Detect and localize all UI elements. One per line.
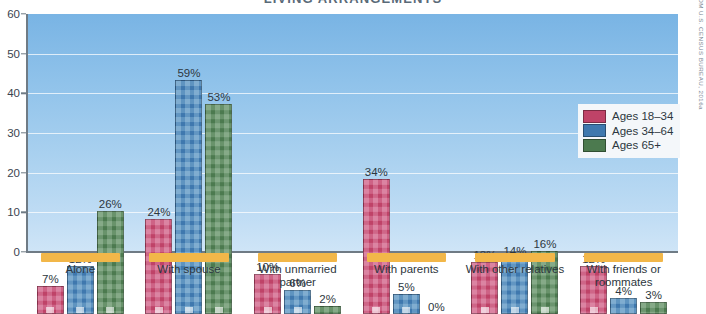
bar[interactable]: 53% xyxy=(205,104,232,314)
base-strip xyxy=(149,253,228,262)
bar[interactable]: 3% xyxy=(640,302,667,314)
category-label: Alone xyxy=(26,263,135,276)
category-label: With other relatives xyxy=(461,263,570,276)
bar-value-label: 16% xyxy=(533,238,556,250)
bar-value-label: 53% xyxy=(207,91,230,103)
category-label: With spouse xyxy=(135,263,244,276)
bar-value-label: 59% xyxy=(177,67,200,79)
bar-door-detail xyxy=(402,307,410,313)
bar[interactable]: 2% xyxy=(314,306,341,314)
base-strip xyxy=(584,253,663,262)
bar-door-detail xyxy=(76,307,84,313)
base-strip xyxy=(41,253,120,262)
base-strip xyxy=(475,253,554,262)
legend-swatch-ages-65-plus xyxy=(583,139,606,152)
legend-item: Ages 34–64 xyxy=(583,124,673,137)
legend-label-ages-18-34: Ages 18–34 xyxy=(612,110,673,122)
bar-value-label: 24% xyxy=(147,206,170,218)
legend-item: Ages 65+ xyxy=(583,139,673,152)
legend-label-ages-65-plus: Ages 65+ xyxy=(612,139,661,151)
bar-door-detail xyxy=(46,307,54,313)
bar[interactable]: 7% xyxy=(37,286,64,314)
bar-door-detail xyxy=(185,307,193,313)
bar-value-label: 34% xyxy=(365,166,388,178)
bar-door-detail xyxy=(590,307,598,313)
bar-value-label: 26% xyxy=(99,198,122,210)
source-credit: DATA FROM U.S. CENSUS BUREAU, 2016a xyxy=(698,0,705,110)
bar[interactable]: 59% xyxy=(175,80,202,314)
bar-value-label: 5% xyxy=(398,281,415,293)
bar-door-detail xyxy=(372,307,380,313)
chart-title: LIVING ARRANGEMENTS xyxy=(0,0,706,6)
bar-door-detail xyxy=(215,307,223,313)
bar-value-label: 0% xyxy=(428,301,445,313)
bar-door-detail xyxy=(511,307,519,313)
bar-door-detail xyxy=(481,307,489,313)
bar-door-detail xyxy=(541,307,549,313)
bar[interactable]: 4% xyxy=(610,298,637,314)
bar[interactable]: 5% xyxy=(393,294,420,314)
bar-value-label: 3% xyxy=(645,289,662,301)
base-strip xyxy=(367,253,446,262)
legend-item: Ages 18–34 xyxy=(583,110,673,123)
legend-label-ages-34-64: Ages 34–64 xyxy=(612,125,673,137)
category-label: With friends or roommates xyxy=(569,263,678,289)
bar-value-label: 2% xyxy=(319,293,336,305)
legend-swatch-ages-18-34 xyxy=(583,110,606,123)
bar-door-detail xyxy=(106,307,114,313)
bar[interactable]: 34% xyxy=(363,179,390,314)
bar-door-detail xyxy=(264,307,272,313)
category-label: With unmarried partner xyxy=(243,263,352,289)
bar[interactable]: 6% xyxy=(284,290,311,314)
bar-door-detail xyxy=(155,307,163,313)
base-strip xyxy=(258,253,337,262)
bar-door-detail xyxy=(294,307,302,313)
category-label: With parents xyxy=(352,263,461,276)
legend-swatch-ages-34-64 xyxy=(583,124,606,137)
legend: Ages 18–34 Ages 34–64 Ages 65+ xyxy=(578,104,680,158)
